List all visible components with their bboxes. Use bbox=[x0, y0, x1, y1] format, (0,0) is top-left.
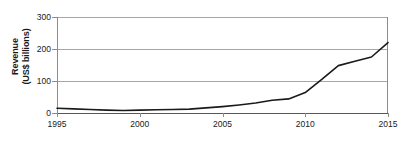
x-tick-mark bbox=[388, 113, 389, 117]
x-axis-tick-labels: 19952000200520102015 bbox=[0, 119, 408, 133]
y-axis-title-line1: Revenue bbox=[10, 28, 21, 84]
x-tick-mark bbox=[223, 113, 224, 117]
x-tick-mark bbox=[140, 113, 141, 117]
plot-area bbox=[57, 17, 388, 113]
x-tick-label: 2000 bbox=[120, 119, 160, 129]
y-tick-mark bbox=[52, 17, 57, 18]
x-tick-label: 2015 bbox=[368, 119, 408, 129]
y-tick-label: 0 bbox=[29, 109, 51, 117]
x-tick-label: 2010 bbox=[285, 119, 325, 129]
y-tick-mark bbox=[52, 49, 57, 50]
y-tick-label: 300 bbox=[29, 13, 51, 21]
gridline-y bbox=[58, 49, 387, 50]
gridline-y bbox=[58, 17, 387, 18]
x-tick-label: 1995 bbox=[37, 119, 77, 129]
x-tick-label: 2005 bbox=[203, 119, 243, 129]
y-tick-label: 100 bbox=[29, 77, 51, 85]
y-tick-mark bbox=[52, 81, 57, 82]
revenue-line-chart: Revenue (US$ billions) 0100200300 199520… bbox=[0, 0, 408, 147]
gridline-y bbox=[58, 81, 387, 82]
y-tick-label: 200 bbox=[29, 45, 51, 53]
x-tick-mark bbox=[305, 113, 306, 117]
x-tick-mark bbox=[57, 113, 58, 117]
